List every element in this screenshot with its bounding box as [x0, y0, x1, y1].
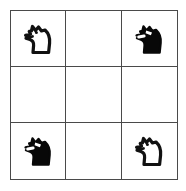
chess-knight-black-icon: [129, 19, 169, 59]
grid-cell-r2c2[interactable]: [66, 67, 121, 123]
grid-cell-r3c2[interactable]: [66, 123, 121, 179]
grid-cell-r3c3[interactable]: [122, 123, 177, 179]
chess-knight-black-icon: [18, 131, 58, 171]
grid-cell-r2c1[interactable]: [11, 67, 66, 123]
knight-grid-container: [0, 0, 186, 191]
grid-cell-r1c2[interactable]: [66, 11, 121, 67]
grid-cell-r2c3[interactable]: [122, 67, 177, 123]
chess-knight-white-icon: [18, 19, 58, 59]
grid-cell-r3c1[interactable]: [11, 123, 66, 179]
chess-knight-white-icon: [129, 131, 169, 171]
grid-cell-r1c3[interactable]: [122, 11, 177, 67]
grid-cell-r1c1[interactable]: [11, 11, 66, 67]
chess-knight-grid: [10, 10, 178, 180]
